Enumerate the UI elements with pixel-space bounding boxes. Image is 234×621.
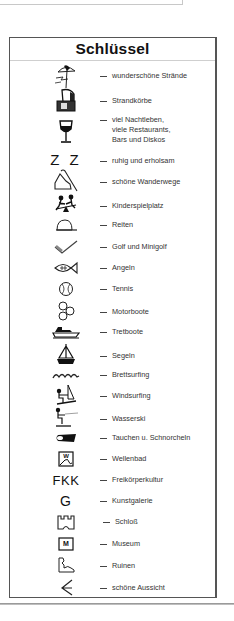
legend-label: Museum bbox=[112, 539, 140, 548]
pedal-boat-icon bbox=[48, 323, 84, 341]
museum-icon: M bbox=[48, 535, 84, 553]
legend-label: Kunstgalerie bbox=[112, 496, 153, 505]
playground-seesaw-icon bbox=[48, 194, 84, 216]
propeller-icon bbox=[48, 301, 84, 321]
legend-label: Ruinen bbox=[112, 561, 135, 570]
svg-text:W: W bbox=[63, 453, 69, 459]
legend-label: Wasserski bbox=[112, 414, 145, 423]
gallery-g-icon: G bbox=[48, 492, 84, 510]
legend-label: Strandkörbe bbox=[112, 96, 152, 105]
viewpoint-icon bbox=[48, 577, 84, 597]
castle-icon bbox=[48, 513, 84, 531]
legend-label: Reiten bbox=[112, 220, 133, 229]
svg-text:M: M bbox=[63, 540, 69, 547]
legend-label: Angeln bbox=[112, 263, 135, 272]
fkk-icon: FKK bbox=[48, 471, 84, 489]
legend-box: Schlüssel wunderschöne Strände Strandkör… bbox=[9, 37, 217, 598]
page-divider bbox=[0, 603, 234, 605]
waves-icon bbox=[48, 367, 84, 383]
legend-label: Freikörperkultur bbox=[112, 475, 163, 484]
sailboat-icon bbox=[48, 342, 84, 366]
legend-title: Schlüssel bbox=[10, 38, 215, 61]
legend-label: Brettsurfing bbox=[112, 370, 149, 379]
legend-label: Segeln bbox=[112, 351, 135, 360]
riding-cap-icon bbox=[48, 216, 84, 234]
legend-label: Tretboote bbox=[112, 327, 143, 336]
wave-pool-icon: W bbox=[48, 449, 84, 469]
legend-label: Kinderspielplatz bbox=[112, 201, 164, 210]
beach-umbrella-icon bbox=[48, 63, 84, 89]
legend-label: Wellenbad bbox=[112, 454, 146, 463]
zz-sleep-icon: Z Z bbox=[48, 149, 84, 169]
legend-label: schöne Wanderwege bbox=[112, 177, 180, 186]
legend-label: Golf und Minigolf bbox=[112, 242, 167, 251]
tennis-ball-icon bbox=[48, 280, 84, 298]
previous-box-edge bbox=[0, 0, 183, 5]
golf-club-icon bbox=[48, 237, 84, 257]
legend-label: ruhig und erholsam bbox=[112, 156, 174, 165]
legend-label: Windsurfing bbox=[112, 391, 151, 400]
wine-glass-icon bbox=[48, 119, 84, 145]
flipper-icon bbox=[48, 430, 84, 446]
legend-label: Schloß bbox=[115, 517, 138, 526]
beach-chair-icon bbox=[48, 88, 84, 112]
hiking-boot-icon bbox=[48, 169, 84, 193]
legend-label: Tennis bbox=[112, 284, 133, 293]
legend-label: Motorboote bbox=[112, 307, 149, 316]
dash bbox=[100, 76, 107, 77]
legend-label: Tauchen u. Schnorcheln bbox=[112, 433, 190, 442]
fish-icon bbox=[48, 259, 84, 277]
legend-label: viel Nachtleben, bbox=[112, 115, 164, 124]
ruins-icon bbox=[48, 555, 84, 575]
water-skier-icon bbox=[48, 407, 84, 429]
windsurfer-icon bbox=[48, 384, 84, 406]
legend-label: wunderschöne Strände bbox=[112, 71, 187, 80]
legend-label: schöne Aussicht bbox=[112, 583, 165, 592]
